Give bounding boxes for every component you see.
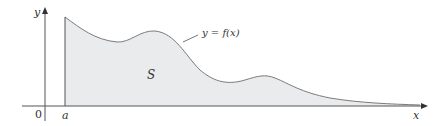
y-axis-label: y xyxy=(34,7,40,18)
origin-label: 0 xyxy=(35,109,42,120)
region-s-fill xyxy=(65,17,420,106)
curve-label: y = f(x) xyxy=(202,28,240,38)
region-label: S xyxy=(147,69,155,81)
left-bound-label: a xyxy=(62,110,69,121)
y-axis-arrow xyxy=(42,7,48,14)
curve-label-leader xyxy=(183,35,198,42)
area-under-curve-diagram: y x 0 a S y = f(x) xyxy=(0,0,440,126)
x-axis-label: x xyxy=(413,110,419,121)
x-axis-arrow xyxy=(421,103,428,109)
diagram-graphics xyxy=(0,0,440,126)
